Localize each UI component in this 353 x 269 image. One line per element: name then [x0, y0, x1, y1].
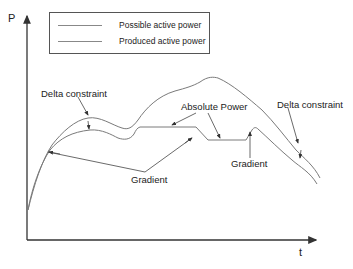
gradient-bottom-leader [48, 138, 192, 172]
delta-constraint-left-gap [88, 121, 89, 129]
legend-label-possible: Possible active power [119, 20, 201, 30]
legend: Possible active power Produced active po… [49, 12, 210, 54]
produced-active-power-curve [28, 127, 317, 210]
annotation-absolute-power: Absolute Power [181, 101, 248, 112]
annotation-gradient-bottom: Gradient [131, 174, 167, 185]
annotation-delta-constraint-left: Delta constraint [41, 88, 107, 99]
annotation-delta-constraint-right: Delta constraint [277, 99, 343, 110]
y-axis-label: P [8, 12, 15, 24]
absolute-power-arrow-left [172, 113, 196, 125]
delta-constraint-right-gap [300, 150, 301, 158]
x-axis-label: t [299, 246, 302, 258]
absolute-power-arrow-right [208, 113, 220, 138]
delta-constraint-right-leader [288, 108, 298, 143]
legend-item-possible: Possible active power [50, 20, 201, 30]
annotation-gradient-middle: Gradient [231, 158, 267, 169]
delta-constraint-left-leader [78, 97, 88, 115]
legend-swatch-possible [58, 25, 102, 26]
legend-item-produced: Produced active power [50, 36, 205, 46]
legend-label-produced: Produced active power [119, 36, 205, 46]
legend-swatch-produced [58, 41, 102, 42]
gradient-bottom-arrow-right [185, 138, 192, 143]
